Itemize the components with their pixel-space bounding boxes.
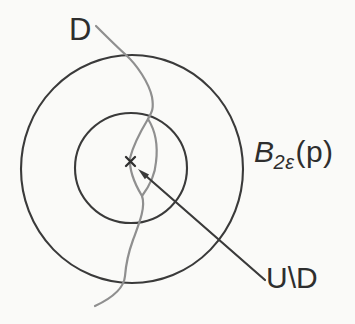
curve-d-path xyxy=(95,26,153,306)
label-curve-d: D xyxy=(69,14,91,45)
label-ball-subscript: 2ε xyxy=(274,151,295,173)
label-ball-argument: (p) xyxy=(295,135,333,168)
label-region-u-minus-d: U\D xyxy=(266,263,318,293)
label-ball-base: B xyxy=(254,135,275,168)
arrow-line xyxy=(146,176,265,280)
label-ball-b2eps-p: B2ε(p) xyxy=(254,137,334,167)
outer-circle xyxy=(21,55,243,283)
figure-canvas: D B2ε(p) U\D xyxy=(0,0,355,324)
